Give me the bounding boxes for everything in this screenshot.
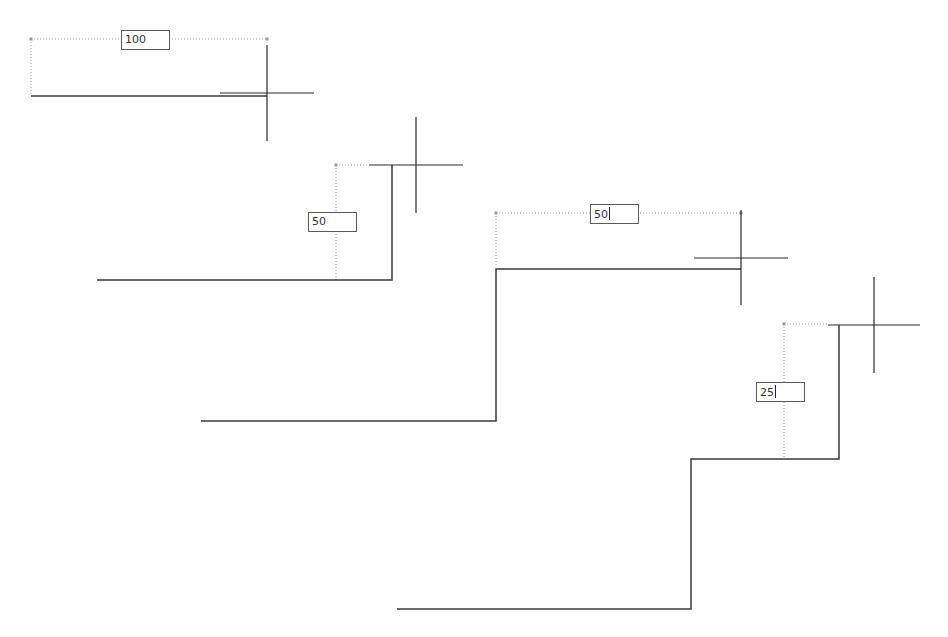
dynamic-input-value: 50 xyxy=(312,215,326,228)
dynamic-input-value: 50 xyxy=(594,208,608,221)
dynamic-input-length-step-2[interactable]: 50 xyxy=(308,212,357,232)
step-4-group xyxy=(397,277,920,609)
crosshair-cursor-icon xyxy=(694,210,788,305)
dynamic-input-length-step-1[interactable]: 100 xyxy=(121,30,170,50)
snap-point-marker xyxy=(266,38,269,41)
step-2-group xyxy=(97,117,463,280)
crosshair-cursor-icon xyxy=(220,45,314,141)
dynamic-input-length-step-3[interactable]: 50 xyxy=(590,204,639,224)
dynamic-input-value: 100 xyxy=(125,33,146,46)
snap-point-marker xyxy=(495,212,498,215)
crosshair-cursor-icon xyxy=(369,117,463,213)
dynamic-input-value: 25 xyxy=(760,386,774,399)
polyline-segment xyxy=(201,269,741,421)
step-1-group xyxy=(30,38,315,142)
polyline-segment xyxy=(397,325,839,609)
drawing-canvas[interactable] xyxy=(0,0,948,637)
crosshair-cursor-icon xyxy=(828,277,920,373)
dynamic-input-length-step-4[interactable]: 25 xyxy=(756,382,805,402)
text-caret xyxy=(609,207,610,220)
step-3-group xyxy=(201,210,788,421)
text-caret xyxy=(775,385,776,398)
snap-point-marker xyxy=(30,38,33,41)
snap-point-marker xyxy=(335,164,338,167)
snap-point-marker xyxy=(783,323,786,326)
